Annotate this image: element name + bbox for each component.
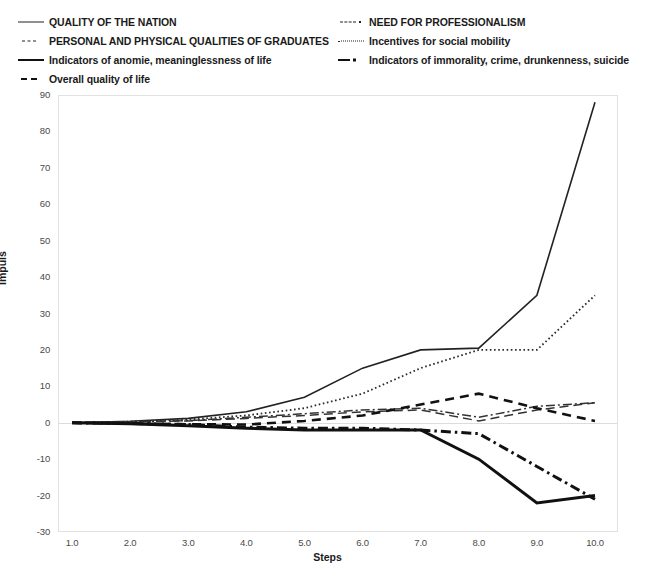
y-tick-label: -10 xyxy=(8,453,50,464)
legend-item-overall-quality-of-life[interactable]: Overall quality of life xyxy=(18,69,348,88)
y-tick-label: 80 xyxy=(8,125,50,136)
y-tick-label: 30 xyxy=(8,308,50,319)
legend-swatch-dash-long-icon xyxy=(18,35,44,47)
y-tick-label: 0 xyxy=(8,417,50,428)
x-tick-label: 3.0 xyxy=(168,537,208,548)
legend-label: PERSONAL AND PHYSICAL QUALITIES OF GRADU… xyxy=(49,35,329,47)
y-tick-label: 90 xyxy=(8,89,50,100)
legend-item-indicators-of-immorality[interactable]: Indicators of immorality, crime, drunken… xyxy=(338,50,655,69)
legend-column-left: QUALITY OF THE NATION PERSONAL AND PHYSI… xyxy=(18,12,348,88)
legend-swatch-dash-med-icon xyxy=(18,73,44,85)
series-line-4 xyxy=(72,423,595,503)
x-tick-label: 8.0 xyxy=(459,537,499,548)
x-axis-title: Steps xyxy=(0,551,655,563)
y-tick-label: 20 xyxy=(8,344,50,355)
x-tick-label: 9.0 xyxy=(517,537,557,548)
x-tick-label: 5.0 xyxy=(284,537,324,548)
legend-swatch-dash-dot-icon xyxy=(338,16,364,28)
y-tick-label: 50 xyxy=(8,235,50,246)
legend-item-need-for-professionalism[interactable]: NEED FOR PROFESSIONALISM xyxy=(338,12,655,31)
y-tick-label: 10 xyxy=(8,380,50,391)
legend-label: Overall quality of life xyxy=(49,73,150,85)
x-tick-label: 7.0 xyxy=(401,537,441,548)
legend-item-incentives-for-social-mobility[interactable]: Incentives for social mobility xyxy=(338,31,655,50)
chart-legend: QUALITY OF THE NATION PERSONAL AND PHYSI… xyxy=(0,12,655,94)
x-tick-label: 10.0 xyxy=(575,537,615,548)
legend-item-quality-of-the-nation[interactable]: QUALITY OF THE NATION xyxy=(18,12,348,31)
y-axis-title: Impuls xyxy=(0,251,8,285)
line-chart: QUALITY OF THE NATION PERSONAL AND PHYSI… xyxy=(0,0,655,578)
legend-column-right: NEED FOR PROFESSIONALISM Incentives for … xyxy=(338,12,655,69)
legend-label: QUALITY OF THE NATION xyxy=(49,16,177,28)
y-tick-label: -20 xyxy=(8,490,50,501)
legend-label: Indicators of anomie, meaninglessness of… xyxy=(49,54,271,66)
plot-area xyxy=(58,95,618,532)
legend-label: NEED FOR PROFESSIONALISM xyxy=(369,16,525,28)
legend-swatch-thick-dash-dot-icon xyxy=(338,54,364,66)
legend-swatch-dotted-icon xyxy=(338,35,364,47)
x-tick-label: 6.0 xyxy=(343,537,383,548)
x-tick-label: 1.0 xyxy=(52,537,92,548)
legend-item-indicators-of-anomie[interactable]: Indicators of anomie, meaninglessness of… xyxy=(18,50,348,69)
series-line-0 xyxy=(72,102,595,422)
y-tick-label: -30 xyxy=(8,526,50,537)
legend-label: Indicators of immorality, crime, drunken… xyxy=(369,54,629,66)
legend-item-personal-and-physical-qualities[interactable]: PERSONAL AND PHYSICAL QUALITIES OF GRADU… xyxy=(18,31,348,50)
legend-label: Incentives for social mobility xyxy=(369,35,510,47)
legend-swatch-solid-thin-icon xyxy=(18,16,44,28)
y-tick-label: 60 xyxy=(8,198,50,209)
x-tick-label: 2.0 xyxy=(110,537,150,548)
y-tick-label: 40 xyxy=(8,271,50,282)
x-tick-label: 4.0 xyxy=(226,537,266,548)
y-tick-label: 70 xyxy=(8,162,50,173)
legend-swatch-solid-thick-icon xyxy=(18,54,44,66)
